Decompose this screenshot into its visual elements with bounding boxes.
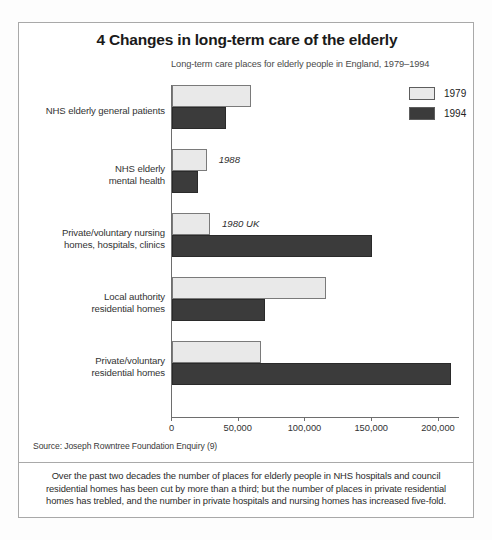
x-tick-2 bbox=[304, 417, 305, 421]
bar-1979-3[interactable] bbox=[172, 277, 326, 299]
bar-1979-1[interactable] bbox=[172, 149, 207, 171]
category-label-1-line1: NHS elderly bbox=[0, 163, 165, 175]
x-tick-0 bbox=[171, 417, 172, 421]
bar-group-0 bbox=[172, 85, 459, 149]
footnote-divider bbox=[19, 462, 473, 463]
plot-area: NHS elderly general patients NHS elderly… bbox=[171, 85, 459, 417]
bar-1994-2[interactable] bbox=[172, 235, 372, 257]
x-tick-label-0: 0 bbox=[169, 423, 174, 433]
x-tick-4 bbox=[438, 417, 439, 421]
bar-group-2: 1980 UK bbox=[172, 213, 459, 277]
category-label-2-line2: homes, hospitals, clinics bbox=[0, 239, 165, 251]
bar-1994-1[interactable] bbox=[172, 171, 198, 193]
category-label-3-line1: Local authority bbox=[0, 291, 165, 303]
annotation-1988: 1988 bbox=[219, 149, 240, 171]
category-label-2-line1: Private/voluntary nursing bbox=[0, 227, 165, 239]
category-label-3: Local authority residential homes bbox=[0, 291, 165, 315]
chart-subtitle: Long-term care places for elderly people… bbox=[171, 59, 471, 69]
annotation-1980-uk: 1980 UK bbox=[222, 213, 259, 235]
x-tick-label-2: 100,000 bbox=[288, 423, 322, 433]
category-label-4-line2: residential homes bbox=[0, 367, 165, 379]
x-tick-3 bbox=[371, 417, 372, 421]
category-label-0-line1: NHS elderly general patients bbox=[46, 105, 165, 116]
bar-group-1: 1988 bbox=[172, 149, 459, 213]
bar-group-4 bbox=[172, 341, 459, 405]
bar-1979-4[interactable] bbox=[172, 341, 261, 363]
x-tick-1 bbox=[238, 417, 239, 421]
footnote-text: Over the past two decades the number of … bbox=[45, 470, 447, 508]
figure-page: 4 Changes in long-term care of the elder… bbox=[0, 0, 492, 540]
x-tick-label-3: 150,000 bbox=[354, 423, 388, 433]
x-tick-label-1: 50,000 bbox=[224, 423, 252, 433]
category-label-1-line2: mental health bbox=[0, 175, 165, 187]
page-title: 4 Changes in long-term care of the elder… bbox=[19, 31, 475, 49]
category-label-4: Private/voluntary residential homes bbox=[0, 355, 165, 379]
category-label-0: NHS elderly general patients bbox=[0, 105, 165, 117]
bar-1994-0[interactable] bbox=[172, 107, 226, 129]
figure-container: 4 Changes in long-term care of the elder… bbox=[18, 22, 474, 518]
category-label-3-line2: residential homes bbox=[0, 303, 165, 315]
bar-1994-3[interactable] bbox=[172, 299, 265, 321]
category-label-2: Private/voluntary nursing homes, hospita… bbox=[0, 227, 165, 251]
x-tick-label-4: 200,000 bbox=[421, 423, 455, 433]
source-note: Source: Joseph Rowntree Foundation Enqui… bbox=[33, 441, 217, 451]
category-label-1: NHS elderly mental health bbox=[0, 163, 165, 187]
bar-1994-4[interactable] bbox=[172, 363, 451, 385]
bar-1979-2[interactable] bbox=[172, 213, 210, 235]
bar-group-3 bbox=[172, 277, 459, 341]
bar-1979-0[interactable] bbox=[172, 85, 251, 107]
category-label-4-line1: Private/voluntary bbox=[0, 355, 165, 367]
x-axis-line bbox=[171, 417, 459, 418]
category-axis-labels: NHS elderly general patients NHS elderly… bbox=[0, 85, 165, 417]
